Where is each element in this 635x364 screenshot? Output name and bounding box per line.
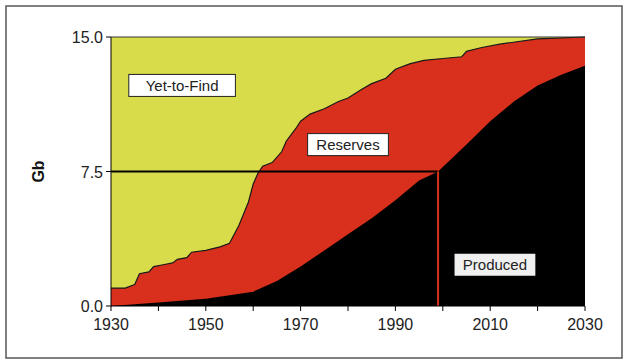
produced-label: Produced: [463, 256, 527, 273]
x-tick-label: 1950: [188, 316, 224, 333]
y-tick-label: 15.0: [72, 29, 103, 46]
x-tick-label: 2030: [567, 316, 603, 333]
depletion-chart: 1930195019701990201020300.07.515.0Gb Yet…: [0, 0, 635, 364]
x-tick-label: 2010: [472, 316, 508, 333]
x-tick-label: 1970: [283, 316, 319, 333]
y-tick-label: 7.5: [81, 164, 103, 181]
y-tick-label: 0.0: [81, 298, 103, 315]
x-tick-label: 1990: [378, 316, 414, 333]
y-axis-label: Gb: [30, 160, 47, 182]
reserves-label: Reserves: [316, 136, 379, 153]
yet-to-find-label: Yet-to-Find: [146, 77, 219, 94]
x-tick-label: 1930: [93, 316, 129, 333]
